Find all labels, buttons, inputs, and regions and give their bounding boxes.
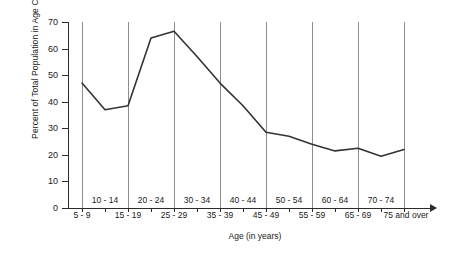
x-cohort-label: 65 - 69 [345, 210, 371, 220]
y-tick-mark [62, 22, 68, 23]
y-axis-line [68, 22, 69, 209]
x-cohort-label: 10 - 14 [92, 195, 118, 205]
x-cohort-label: 55 - 59 [299, 210, 325, 220]
y-tick-label: 40 [38, 102, 58, 103]
x-tick-mark [105, 208, 106, 212]
vertical-gridline [82, 22, 83, 208]
y-tick-mark [62, 128, 68, 129]
vertical-gridline [220, 22, 221, 208]
y-tick-label: 60 [38, 49, 58, 50]
x-tick-mark [243, 208, 244, 212]
vertical-gridline [128, 22, 129, 208]
chart-figure: Percent of Total Population in Age Cohor… [0, 0, 458, 258]
x-cohort-label: 15 - 19 [115, 210, 141, 220]
x-axis-title-text: Age (in years) [229, 231, 282, 241]
vertical-gridline [358, 22, 359, 208]
x-axis-title: Age (in years) [0, 231, 458, 241]
y-tick-mark [62, 102, 68, 103]
series-polyline [82, 31, 404, 156]
vertical-gridline [174, 22, 175, 208]
x-cohort-label: 35 - 39 [207, 210, 233, 220]
x-cohort-label: 45 - 49 [253, 210, 279, 220]
x-tick-mark [197, 208, 198, 212]
x-axis-line [68, 208, 432, 209]
y-tick-label: 70 [38, 22, 58, 23]
y-tick-mark [62, 49, 68, 50]
x-cohort-label: 25 - 29 [161, 210, 187, 220]
y-tick-label: 0 [38, 208, 58, 209]
x-cohort-label: 75 and over [384, 210, 429, 220]
x-cohort-label: 70 - 74 [368, 195, 394, 205]
x-cohort-label: 20 - 24 [138, 195, 164, 205]
x-tick-mark [289, 208, 290, 212]
y-tick-label: 20 [38, 155, 58, 156]
y-tick-mark [62, 181, 68, 182]
x-tick-mark [381, 208, 382, 212]
x-cohort-label: 5 - 9 [73, 210, 90, 220]
vertical-gridline [404, 22, 405, 208]
x-axis-arrow-icon [430, 204, 437, 212]
x-cohort-label: 60 - 64 [322, 195, 348, 205]
x-cohort-label: 30 - 34 [184, 195, 210, 205]
y-tick-mark [62, 155, 68, 156]
x-cohort-label: 50 - 54 [276, 195, 302, 205]
y-tick-mark [62, 208, 68, 209]
y-tick-mark [62, 75, 68, 76]
vertical-gridline [312, 22, 313, 208]
vertical-gridline [266, 22, 267, 208]
y-tick-label: 30 [38, 128, 58, 129]
x-cohort-label: 40 - 44 [230, 195, 256, 205]
y-tick-label: 50 [38, 75, 58, 76]
x-tick-mark [335, 208, 336, 212]
y-tick-label: 10 [38, 181, 58, 182]
x-tick-mark [151, 208, 152, 212]
